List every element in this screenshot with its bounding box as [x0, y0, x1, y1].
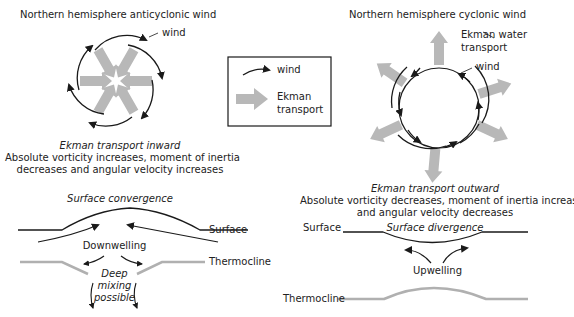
upwelling-arrow-right [443, 248, 467, 263]
deep-mixing-3: possible [92, 292, 137, 304]
ekman-water-label-1: Ekman water [461, 29, 527, 41]
downwelling-arrow-left [84, 256, 104, 264]
anticyclonic-title: Northern hemisphere anticyclonic wind [20, 9, 212, 21]
right-description-1: Absolute vorticity decreases, moment of … [300, 195, 574, 207]
left-description-1: Absolute vorticity increases, moment of … [5, 152, 235, 164]
downwelling-label: Downwelling [72, 240, 157, 252]
thermocline-left-depressed-r [137, 262, 205, 274]
wind-pointer-line [461, 68, 472, 73]
surface-divergence-title: Surface divergence [385, 222, 485, 234]
wind-label-right: wind [476, 61, 500, 73]
wind-label: wind [162, 27, 186, 39]
thermocline-label-left: Thermocline [209, 256, 271, 268]
surface-label-left: Surface [209, 224, 247, 236]
upwelling-label: Upwelling [400, 265, 475, 277]
ekman-inward-arrows [80, 45, 152, 116]
cyclonic-title: Northern hemisphere cyclonic wind [345, 9, 530, 21]
transport-inward-heading: Ekman transport inward [10, 140, 230, 152]
deep-mixing-1: Deep [92, 268, 137, 280]
downwelling-arrow-right [121, 256, 142, 264]
right-description-2: and angular velocity decreases [330, 207, 540, 219]
legend-ekman-icon [236, 88, 268, 110]
thermocline-left-depressed [20, 262, 88, 274]
legend-ekman-label-2: transport [277, 104, 323, 116]
transport-outward-heading: Ekman transport outward [355, 183, 515, 195]
legend-ekman-label-1: Ekman [277, 91, 311, 103]
wind-pointer-line [149, 33, 158, 37]
ekman-water-label-2: transport [461, 42, 507, 54]
upwelling-arrow-left [406, 250, 431, 263]
thermocline-label-right: Thermocline [283, 293, 345, 305]
surface-label-right: Surface [303, 222, 341, 234]
left-description-2: decreases and angular velocity increases [5, 164, 235, 176]
surface-convergence-title: Surface convergence [60, 193, 180, 205]
legend-wind-label: wind [277, 64, 301, 76]
legend-wind-icon [243, 69, 269, 75]
deep-mixing-2: mixing [92, 280, 137, 292]
thermocline-right-raised [338, 288, 528, 299]
